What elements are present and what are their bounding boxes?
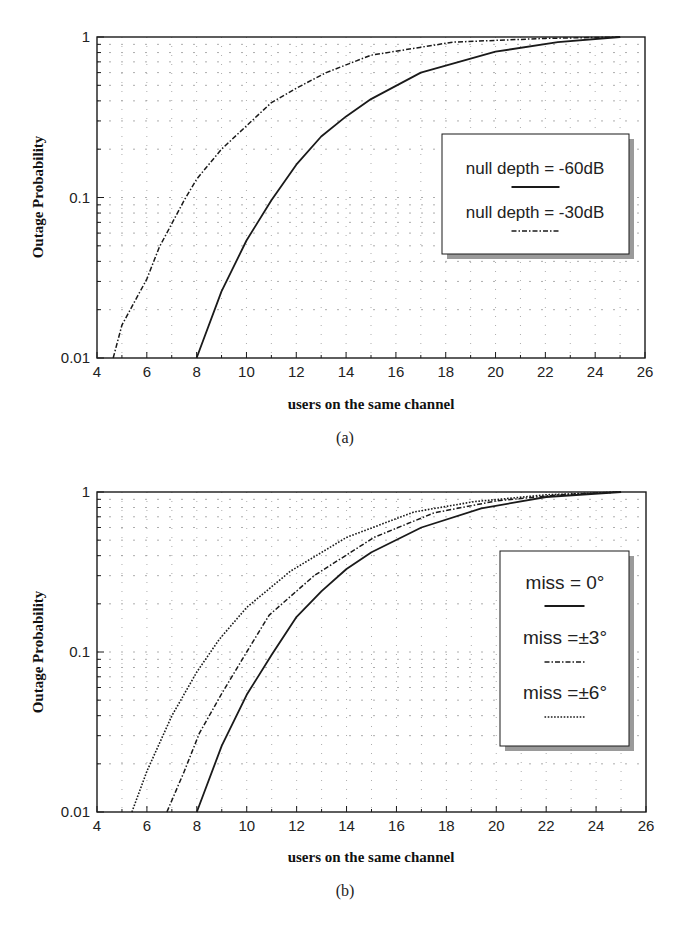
legend-background: [442, 134, 629, 254]
y-tick-label: 0.1: [69, 643, 90, 660]
x-axis-title: users on the same channel: [288, 396, 455, 412]
x-tick-label: 20: [488, 817, 505, 834]
y-axis-title: Outage Probability: [30, 590, 46, 713]
x-tick-label: 16: [388, 363, 405, 380]
y-tick-label: 0.01: [61, 349, 90, 366]
x-tick-label: 24: [588, 817, 605, 834]
x-tick-label: 26: [638, 817, 655, 834]
legend-box: null depth = -60dB null depth = -30dB: [442, 134, 634, 259]
panel-caption: (b): [336, 882, 355, 900]
y-tick-label: 1: [82, 28, 90, 45]
figure-canvas: 4681012141618202224260.010.11 null depth…: [0, 0, 684, 928]
x-tick-label: 26: [637, 363, 654, 380]
y-tick-label: 0.1: [69, 189, 90, 206]
x-tick-label: 12: [288, 817, 305, 834]
x-tick-label: 22: [537, 363, 554, 380]
x-tick-label: 10: [238, 363, 255, 380]
legend-label-miss-6: miss =±6°: [523, 682, 607, 703]
x-tick-label: 14: [338, 363, 355, 380]
x-tick-label: 16: [388, 817, 405, 834]
x-tick-label: 18: [438, 817, 455, 834]
legend-label-miss-0: miss = 0°: [526, 572, 605, 593]
x-tick-label: 14: [338, 817, 355, 834]
x-tick-label: 6: [143, 363, 151, 380]
x-tick-label: 20: [487, 363, 504, 380]
x-tick-label: 4: [93, 817, 101, 834]
legend-label-miss-3: miss =±3°: [523, 627, 607, 648]
legend-label-60db: null depth = -60dB: [466, 159, 604, 178]
x-axis-title: users on the same channel: [288, 849, 455, 865]
legend-box: miss = 0° miss =±3° miss =±6°: [500, 551, 634, 751]
y-tick-label: 1: [82, 483, 90, 500]
x-tick-label: 6: [143, 817, 151, 834]
x-tick-label: 8: [192, 363, 200, 380]
legend-label-30db: null depth = -30dB: [466, 203, 604, 222]
x-tick-label: 22: [538, 817, 555, 834]
x-tick-label: 12: [288, 363, 305, 380]
x-tick-label: 4: [93, 363, 101, 380]
panel-caption: (a): [336, 429, 354, 447]
x-tick-label: 18: [437, 363, 454, 380]
x-tick-label: 24: [587, 363, 604, 380]
chart-panel-a: 4681012141618202224260.010.11 null depth…: [30, 28, 653, 447]
y-tick-label: 0.01: [61, 803, 90, 820]
chart-panel-b: 4681012141618202224260.010.11 miss = 0° …: [30, 483, 654, 900]
y-axis-title: Outage Probability: [30, 135, 46, 258]
x-tick-label: 10: [238, 817, 255, 834]
x-tick-label: 8: [193, 817, 201, 834]
